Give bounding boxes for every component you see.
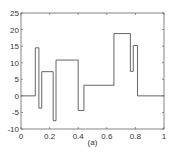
y-tick-label: -10: [7, 125, 19, 134]
y-tick-label: 15: [10, 42, 19, 51]
y-tick-label: 20: [10, 26, 19, 35]
y-tick-label: 5: [15, 75, 20, 84]
y-tick-labels: -10-50510152025: [7, 9, 19, 134]
x-tick-label: 0.6: [101, 132, 113, 141]
x-tick-label: 0: [19, 132, 24, 141]
y-tick-label: 0: [15, 92, 20, 101]
x-tick-label: 0.4: [73, 132, 85, 141]
y-tick-label: 10: [10, 59, 19, 68]
chart-caption: (a): [88, 138, 98, 147]
signal-line: [21, 34, 164, 121]
y-tick-label: 25: [10, 9, 19, 18]
x-tick-label: 1: [162, 132, 167, 141]
x-tick-label: 0.8: [130, 132, 142, 141]
y-tick-label: -5: [12, 108, 20, 117]
plot-frame: [21, 13, 164, 129]
axis-ticks: [21, 13, 164, 129]
x-tick-label: 0.2: [44, 132, 56, 141]
step-chart: 00.20.40.60.81 -10-50510152025 (a): [0, 0, 174, 166]
